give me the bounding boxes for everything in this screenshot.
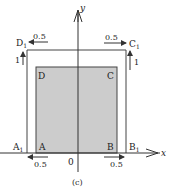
origin-label: 0 [68, 157, 74, 167]
a-horizontal-value: 0.5 [34, 160, 47, 169]
x-axis-label: x [161, 148, 166, 158]
label-a1: A1 [12, 142, 23, 153]
label-c: C [107, 71, 114, 81]
figure-caption: (c) [72, 178, 83, 187]
label-c1: C1 [129, 39, 140, 50]
label-d: D [38, 71, 45, 81]
label-d1: D1 [16, 38, 27, 49]
label-a: A [38, 142, 46, 152]
label-b1: B1 [129, 142, 139, 153]
d1-horizontal-value: 0.5 [33, 32, 46, 41]
label-b: B [107, 142, 114, 152]
deformation-diagram: y x 0 D C A B D1 C1 A1 B1 0.5 1 0.5 1 0.… [0, 0, 170, 196]
inner-rectangle-abcd [36, 67, 117, 153]
b-horizontal-value: 0.5 [110, 160, 123, 169]
c1-vertical-value: 1 [134, 58, 139, 67]
c1-horizontal-value: 0.5 [105, 33, 118, 42]
d1-vertical-value: 1 [15, 56, 20, 65]
y-axis-label: y [79, 3, 86, 13]
